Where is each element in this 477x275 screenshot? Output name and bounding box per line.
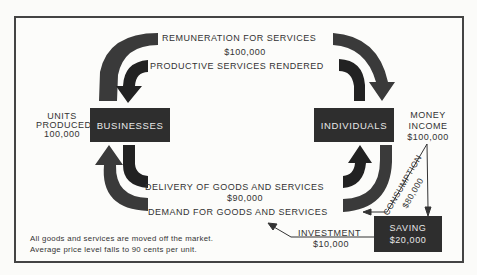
footnote-line-2: Average price level falls to 90 cents pe… xyxy=(30,244,213,255)
saving-value: $20,000 xyxy=(390,234,427,246)
footnote-line-1: All goods and services are moved off the… xyxy=(30,233,213,244)
units-value: 100,000 xyxy=(36,130,88,139)
individuals-box: INDIVIDUALS xyxy=(314,108,394,142)
saving-box: SAVING $20,000 xyxy=(374,216,442,252)
money-label: MONEY xyxy=(398,110,458,121)
saving-label: SAVING xyxy=(390,222,427,234)
businesses-box: BUSINESSES xyxy=(90,108,170,142)
investment-label: INVESTMENT xyxy=(298,228,361,238)
remuneration-amount: $100,000 xyxy=(210,47,280,57)
delivery-amount: $90,000 xyxy=(210,193,280,203)
demand-label: DEMAND FOR GOODS AND SERVICES xyxy=(148,207,328,217)
remuneration-label: REMUNERATION FOR SERVICES xyxy=(162,33,316,43)
productive-services-label: PRODUCTIVE SERVICES RENDERED xyxy=(150,61,324,71)
investment-value: $10,000 xyxy=(313,239,349,249)
units-produced-label: UNITS PRODUCED 100,000 xyxy=(36,112,88,139)
footnote: All goods and services are moved off the… xyxy=(30,233,213,255)
money-income-value: $100,000 xyxy=(398,132,458,143)
delivery-label: DELIVERY OF GOODS AND SERVICES xyxy=(145,182,324,192)
saving-arrow xyxy=(425,144,431,216)
money-income-label: MONEY INCOME $100,000 xyxy=(398,110,458,143)
income-label: INCOME xyxy=(398,121,458,132)
